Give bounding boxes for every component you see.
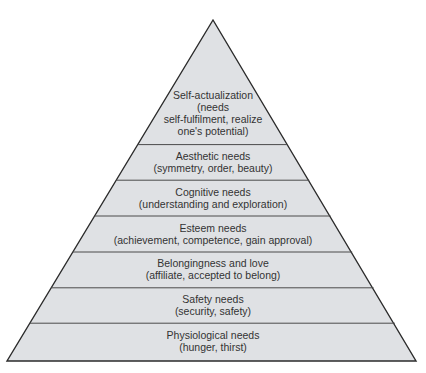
- tier-description: one's potential): [178, 125, 249, 137]
- tier-description: (understanding and exploration): [139, 198, 287, 210]
- tier-label: Aesthetic needs: [176, 150, 251, 162]
- tier-belongingness: Belongingness and love (affiliate, accep…: [146, 257, 281, 281]
- tier-label: Belongingness and love: [157, 257, 269, 269]
- tier-description: (affiliate, accepted to belong): [146, 269, 281, 281]
- tier-label: Cognitive needs: [175, 186, 250, 198]
- tier-self-actualization: Self-actualization (needs self-fulfilmen…: [164, 89, 263, 137]
- tier-description: (security, safety): [175, 305, 251, 317]
- tier-label: Self-actualization: [173, 89, 253, 101]
- tier-physiological: Physiological needs (hunger, thirst): [167, 329, 260, 353]
- tier-description: (needs: [197, 101, 229, 113]
- tier-description: (symmetry, order, beauty): [154, 162, 273, 174]
- tier-description: (achievement, competence, gain approval): [114, 234, 312, 246]
- tier-description: (hunger, thirst): [179, 341, 247, 353]
- pyramid-diagram: Self-actualization (needs self-fulfilmen…: [0, 0, 426, 373]
- tier-label: Esteem needs: [179, 222, 246, 234]
- tier-safety: Safety needs (security, safety): [175, 293, 251, 317]
- tier-label: Physiological needs: [167, 329, 260, 341]
- tier-description: self-fulfilment, realize: [164, 113, 263, 125]
- tier-label: Safety needs: [182, 293, 243, 305]
